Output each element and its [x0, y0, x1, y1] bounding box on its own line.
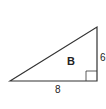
vertical-side-label: 6	[100, 52, 106, 63]
triangle-diagram: B 6 8	[0, 0, 106, 109]
right-angle-marker	[86, 71, 97, 81]
triangle-name-label: B	[67, 55, 75, 67]
horizontal-side-label: 8	[55, 84, 61, 95]
triangle-shape	[10, 27, 97, 81]
